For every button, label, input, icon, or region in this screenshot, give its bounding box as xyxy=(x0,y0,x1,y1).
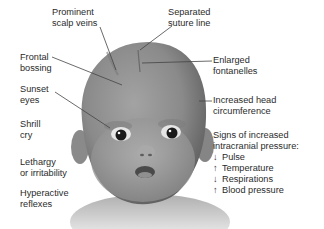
label-line: or irritability xyxy=(20,168,67,179)
label-frontal-bossing: Frontal bossing xyxy=(20,52,52,74)
label-line: suture line xyxy=(168,18,210,29)
label-line: reflexes xyxy=(20,199,69,210)
icp-item-blood-pressure: ↑Blood pressure xyxy=(213,185,299,196)
label-line: bossing xyxy=(20,63,52,74)
icp-heading-line: Signs of increased xyxy=(213,130,299,141)
label-line: Prominent xyxy=(52,7,97,18)
icp-item-label: Pulse xyxy=(222,152,245,162)
label-prominent-scalp-veins: Prominent scalp veins xyxy=(52,7,97,29)
label-line: Enlarged xyxy=(213,55,257,66)
label-increased-head-circumference: Increased head circumference xyxy=(213,95,276,117)
label-line: fontanelles xyxy=(213,66,257,77)
icp-item-label: Blood pressure xyxy=(222,185,284,195)
label-line: Increased head xyxy=(213,95,276,106)
label-shrill-cry: Shrill cry xyxy=(20,119,40,141)
icp-item-label: Temperature xyxy=(222,163,274,173)
icp-heading-line: intracranial pressure: xyxy=(213,141,299,152)
label-line: circumference xyxy=(213,106,276,117)
icp-infant-diagram: Prominent scalp veins Frontal bossing Su… xyxy=(0,0,324,229)
icp-signs-list: Signs of increased intracranial pressure… xyxy=(213,130,299,196)
arrow-up-icon: ↑ xyxy=(213,185,222,196)
icp-item-temperature: ↑Temperature xyxy=(213,163,299,174)
label-separated-suture-line: Separated suture line xyxy=(168,7,210,29)
label-lethargy: Lethargy or irritability xyxy=(20,157,67,179)
label-line: Frontal xyxy=(20,52,52,63)
label-line: Sunset xyxy=(20,84,49,95)
label-line: Lethargy xyxy=(20,157,67,168)
label-line: eyes xyxy=(20,95,49,106)
icp-item-respirations: ↓Respirations xyxy=(213,174,299,185)
label-hyperactive-reflexes: Hyperactive reflexes xyxy=(20,188,69,210)
label-line: Separated xyxy=(168,7,210,18)
label-line: Shrill xyxy=(20,119,40,130)
arrow-down-icon: ↓ xyxy=(213,152,222,163)
label-sunset-eyes: Sunset eyes xyxy=(20,84,49,106)
arrow-up-icon: ↑ xyxy=(213,163,222,174)
label-enlarged-fontanelles: Enlarged fontanelles xyxy=(213,55,257,77)
label-line: scalp veins xyxy=(52,18,97,29)
label-line: Hyperactive xyxy=(20,188,69,199)
arrow-down-icon: ↓ xyxy=(213,174,222,185)
icp-item-pulse: ↓Pulse xyxy=(213,152,299,163)
icp-item-label: Respirations xyxy=(222,174,273,184)
label-line: cry xyxy=(20,130,40,141)
